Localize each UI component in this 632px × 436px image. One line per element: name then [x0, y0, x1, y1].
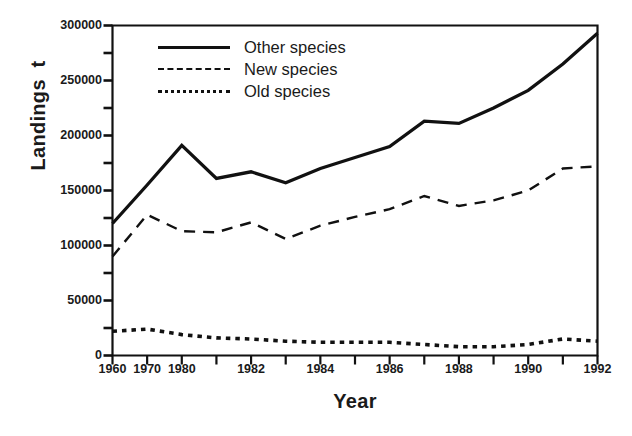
legend-item: New species	[158, 58, 388, 80]
x-tick-label: 1984	[306, 362, 334, 376]
line-chart: Landings t 05000010000015000020000025000…	[0, 0, 632, 436]
legend-item-label: New species	[244, 61, 338, 78]
legend-item: Old species	[158, 80, 388, 102]
x-tick-label: 1990	[514, 362, 542, 376]
x-tick-label: 1992	[584, 362, 612, 376]
chart-legend: Other speciesNew speciesOld species	[158, 36, 388, 102]
x-tick-label: 1980	[168, 362, 196, 376]
x-tick-label: 1986	[376, 362, 404, 376]
legend-item: Other species	[158, 36, 388, 58]
legend-item-label: Old species	[244, 83, 330, 100]
series-line-old-species	[113, 329, 598, 347]
x-tick-label: 1982	[237, 362, 265, 376]
x-tick-label: 1960	[99, 362, 127, 376]
series-line-new-species	[113, 166, 598, 256]
legend-item-label: Other species	[244, 39, 346, 56]
x-axis-tick-labels: 196019701980198219841986198819901992	[0, 362, 632, 386]
x-tick-label: 1970	[133, 362, 161, 376]
legend-line-swatch-solid	[158, 41, 230, 53]
x-axis-title: Year	[112, 390, 598, 413]
legend-line-swatch-dashed	[158, 63, 230, 75]
x-tick-label: 1988	[445, 362, 473, 376]
legend-line-swatch-dotted	[158, 85, 230, 97]
